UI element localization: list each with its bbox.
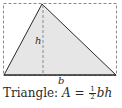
formula-caption: Triangle: A = 1 2 bh — [3, 86, 112, 101]
triangle-figure: h b — [0, 0, 122, 84]
caption-name: Triangle: — [3, 86, 58, 100]
one-half-fraction: 1 2 — [89, 86, 95, 101]
base-label: b — [58, 75, 64, 84]
height-label: h — [35, 35, 41, 46]
area-symbol: A — [62, 86, 71, 100]
base-height-product: bh — [97, 86, 112, 100]
equals-sign: = — [74, 86, 84, 100]
triangle-shape — [4, 4, 116, 75]
fraction-denominator: 2 — [89, 94, 95, 101]
